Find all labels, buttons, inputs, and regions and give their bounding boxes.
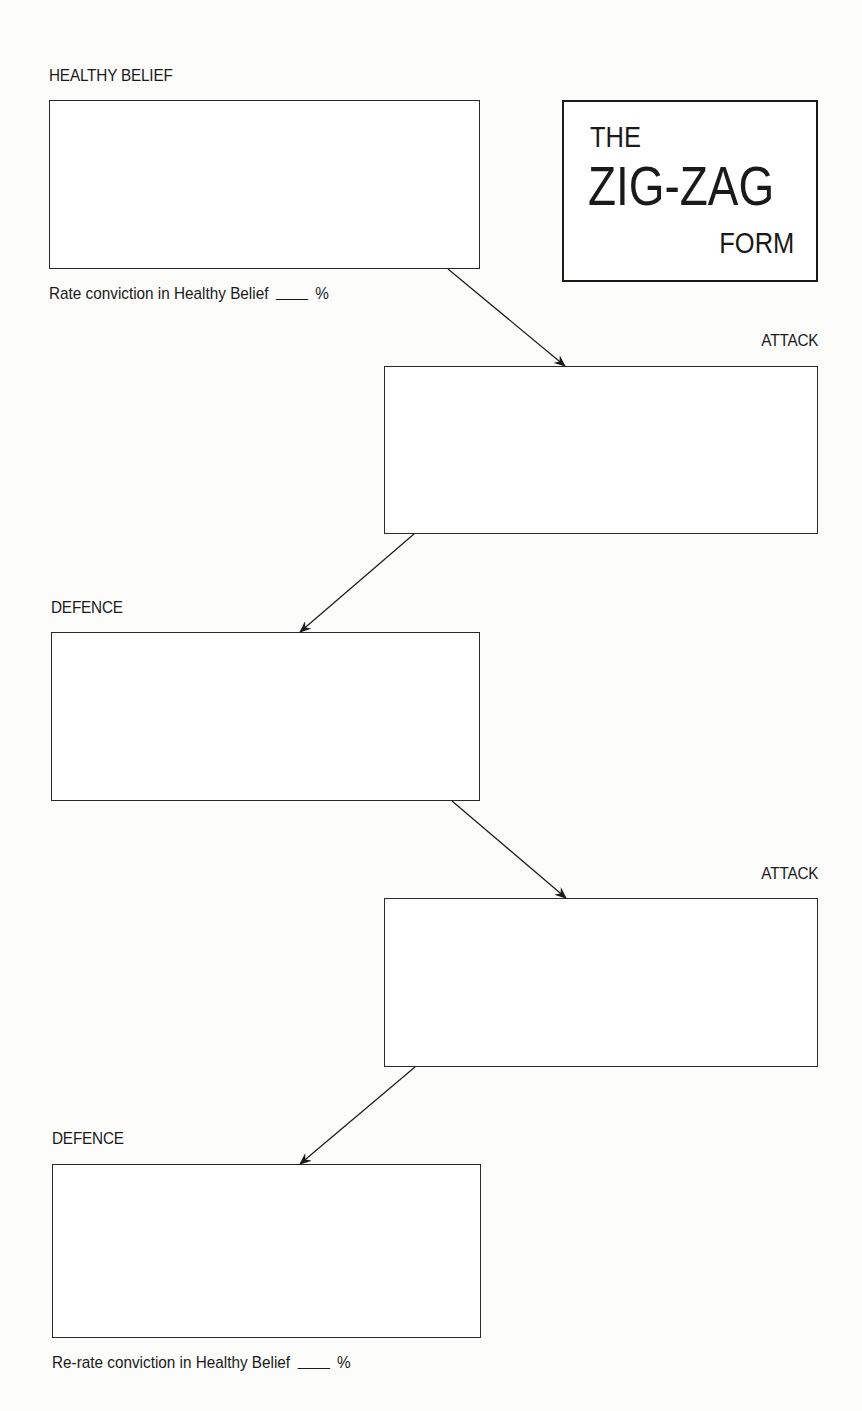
arrow-icon: [452, 801, 566, 898]
zig-zag-arrows: [0, 0, 862, 1411]
arrow-icon: [300, 1067, 415, 1164]
arrow-icon: [300, 534, 414, 632]
arrow-icon: [448, 269, 565, 366]
